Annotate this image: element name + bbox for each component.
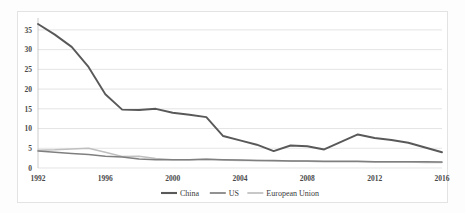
x-tick-label: 2000 <box>165 174 180 183</box>
legend-label-us[interactable]: US <box>229 189 239 198</box>
y-tick-label: 0 <box>28 164 32 173</box>
y-tick-label: 35 <box>25 26 33 35</box>
series-line-china <box>38 24 442 152</box>
y-tick-label: 10 <box>25 124 33 133</box>
gridlines <box>38 30 442 168</box>
x-tick-label: 1992 <box>31 174 46 183</box>
y-axis-tick-labels: 05101520253035 <box>25 26 33 173</box>
chart-legend: ChinaUSEuropean Union <box>161 189 319 198</box>
x-tick-label: 2004 <box>233 174 248 183</box>
y-tick-label: 30 <box>25 45 33 54</box>
x-tick-label: 1996 <box>98 174 113 183</box>
x-axis-tick-labels: 1992199620002004200820122016 <box>31 174 450 183</box>
chart-container: 05101520253035 1992199620002004200820122… <box>0 0 465 213</box>
x-tick-label: 2012 <box>367 174 382 183</box>
line-chart: 05101520253035 1992199620002004200820122… <box>0 0 465 213</box>
x-tick-label: 2008 <box>300 174 315 183</box>
y-tick-label: 15 <box>25 105 33 114</box>
series-line-us <box>38 151 442 162</box>
y-tick-label: 25 <box>25 65 33 74</box>
y-tick-label: 20 <box>25 85 33 94</box>
legend-label-european-union[interactable]: European Union <box>266 189 319 198</box>
y-tick-label: 5 <box>28 144 32 153</box>
legend-label-china[interactable]: China <box>180 189 200 198</box>
data-series-group <box>38 24 442 163</box>
x-tick-label: 2016 <box>435 174 450 183</box>
